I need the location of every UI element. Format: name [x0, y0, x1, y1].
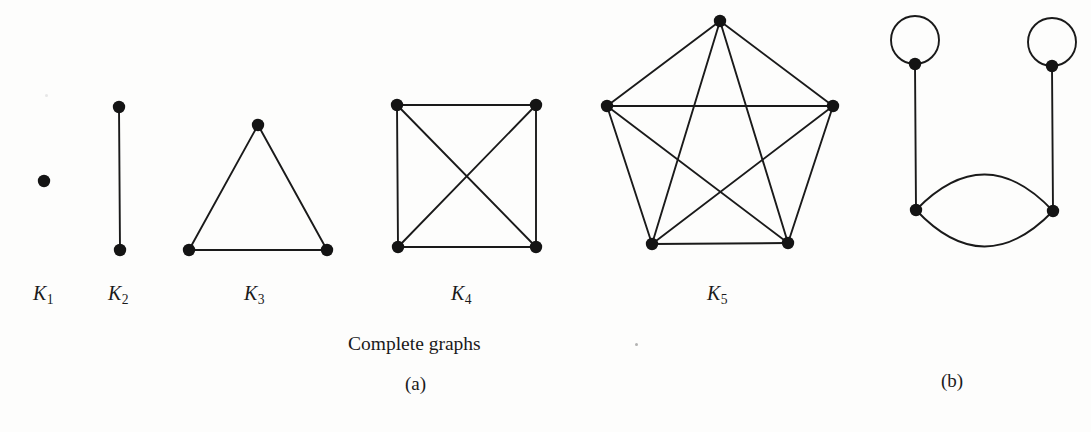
graph-label-subscript-k2: 2 [121, 292, 128, 307]
graph-edge-k5-8 [652, 106, 833, 244]
graph-vertex-k4-2 [530, 99, 542, 111]
graph-label-subscript-k4: 4 [464, 292, 471, 307]
graph-vertex-k5-4 [646, 238, 658, 250]
graph-complete-graph-k5 [601, 15, 839, 250]
graph-complete-graph-k3 [183, 119, 333, 256]
graph-figure-canvas [0, 0, 1091, 432]
graph-multigraph-with-loops [891, 16, 1076, 247]
graph-vertex-k4-1 [391, 99, 403, 111]
graph-label-k1: K1 [33, 282, 54, 308]
graph-edge-multigraph-b-4 [916, 174, 1053, 211]
graph-label-subscript-k1: 1 [46, 292, 53, 307]
graph-vertex-k4-3 [392, 241, 404, 253]
graph-edge-k5-3 [652, 21, 720, 244]
graph-label-letter-k1: K [33, 282, 46, 304]
graph-edge-k5-10 [652, 243, 788, 244]
graph-vertex-k5-1 [714, 15, 726, 27]
figure-page: Complete graphs (a) (b) K1K2K3K4K5 [0, 0, 1091, 432]
graph-vertex-multigraph-b-2 [1046, 60, 1058, 72]
graph-edge-k5-7 [607, 106, 788, 243]
graph-label-k5: K5 [707, 282, 728, 308]
graph-vertex-k5-2 [601, 100, 613, 112]
graph-label-subscript-k5: 5 [720, 292, 727, 307]
part-a-label: (a) [405, 373, 426, 395]
part-b-label: (b) [941, 370, 963, 392]
graph-edge-k4-2 [397, 105, 398, 247]
graph-vertex-k2-1 [113, 101, 125, 113]
graph-edge-k3-2 [258, 125, 327, 250]
graph-label-letter-k4: K [451, 282, 464, 304]
graph-label-letter-k3: K [244, 282, 257, 304]
graph-edge-k5-4 [720, 21, 788, 243]
graph-vertex-multigraph-b-4 [1047, 205, 1059, 217]
graph-label-k3: K3 [244, 282, 265, 308]
graph-label-letter-k5: K [707, 282, 720, 304]
graph-vertex-k5-3 [827, 100, 839, 112]
graph-vertex-k3-2 [183, 244, 195, 256]
graph-vertex-k3-3 [321, 244, 333, 256]
paper-speck-2 [45, 94, 48, 97]
graph-label-k4: K4 [451, 282, 472, 308]
graph-vertex-k4-4 [530, 241, 542, 253]
graph-edge-k5-2 [720, 21, 833, 106]
graph-complete-graph-k4 [391, 99, 542, 253]
graph-edge-multigraph-b-2 [1052, 66, 1053, 211]
graph-edge-k5-1 [607, 21, 720, 106]
graph-complete-graph-k2 [113, 101, 126, 256]
graph-vertex-k5-5 [782, 237, 794, 249]
graph-vertex-k3-1 [252, 119, 264, 131]
graph-edge-k3-1 [189, 125, 258, 250]
graph-vertex-multigraph-b-1 [909, 58, 921, 70]
graph-edge-k5-6 [607, 106, 652, 244]
graph-self-loop-multigraph-b-2 [1028, 18, 1076, 66]
complete-graphs-caption: Complete graphs [348, 333, 481, 355]
graph-self-loop-multigraph-b-1 [891, 16, 939, 64]
graph-edge-k5-9 [788, 106, 833, 243]
graph-label-subscript-k3: 3 [257, 292, 264, 307]
graph-vertex-k2-2 [114, 244, 126, 256]
graph-edge-multigraph-b-1 [915, 64, 916, 210]
graph-complete-graph-k1 [38, 175, 50, 187]
paper-speck-1 [635, 343, 638, 346]
graph-edge-multigraph-b-3 [916, 210, 1053, 247]
graph-edge-k2-1 [119, 107, 120, 250]
graph-label-k2: K2 [108, 282, 129, 308]
graph-label-letter-k2: K [108, 282, 121, 304]
graph-vertex-multigraph-b-3 [910, 204, 922, 216]
graph-vertex-k1-1 [38, 175, 50, 187]
